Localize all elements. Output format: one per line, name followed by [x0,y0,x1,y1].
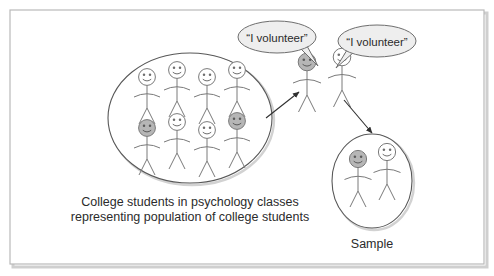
diagram-root: College students in psychology classes r… [0,0,494,276]
figure-eye-left [303,58,306,61]
figure-eye-left [143,125,146,128]
figure-head [139,69,156,86]
figure-eye-right [239,118,242,121]
population-caption-line-2: representing population of college stude… [71,210,309,224]
population-ellipse [108,53,272,183]
figure-eye-right [239,67,242,70]
figure-eye-left [173,67,176,70]
figure-head [298,53,316,71]
figure-eye-left [338,53,341,56]
figure-eye-left [354,156,357,159]
figure-eye-right [149,125,152,128]
sample-ellipse [332,134,412,228]
figure-eye-left [203,74,206,77]
figure-eye-left [233,67,236,70]
population-caption-line-1: College students in psychology classes [81,195,298,209]
figure-eye-left [233,118,236,121]
figure-head [229,62,246,79]
figure-eye-left [383,149,386,152]
figure-eye-right [360,156,363,159]
figure-eye-right [149,74,152,77]
figure-head [229,113,246,130]
figure-head [378,143,395,160]
figure-head [199,122,216,139]
figure-head [169,114,186,131]
figure-eye-left [203,127,206,130]
figure-head [199,69,216,86]
sampling-diagram: College students in psychology classes r… [0,0,494,276]
speech-bubble-text: “I volunteer” [246,32,308,44]
sample-caption: Sample [351,237,393,251]
figure-head [139,120,156,137]
figure-eye-left [143,74,146,77]
figure-head [349,150,366,167]
figure-eye-right [179,119,182,122]
speech-bubble-text: “I volunteer” [346,36,408,48]
figure-eye-right [389,149,392,152]
figure-eye-right [179,67,182,70]
figure-eye-left [173,119,176,122]
figure-eye-right [209,127,212,130]
figure-eye-right [209,74,212,77]
figure-head [169,62,186,79]
